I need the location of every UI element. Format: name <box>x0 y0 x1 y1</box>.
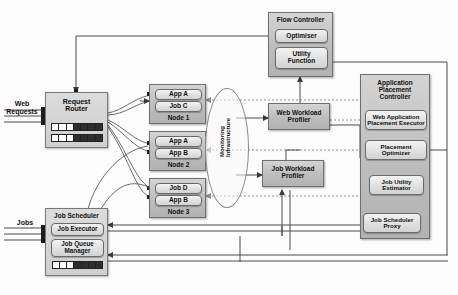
flow-controller-optimiser[interactable]: Optimiser <box>275 29 328 43</box>
request-router[interactable]: RequestRouter <box>45 92 108 148</box>
job-scheduler-title: Job Scheduler <box>46 213 107 220</box>
node-3[interactable]: Job D App B Node 3 <box>149 178 206 218</box>
node-1[interactable]: App A Job C Node 1 <box>149 84 206 124</box>
web-workload-profiler-title: Web WorkloadProfiler <box>269 110 329 124</box>
job-workload-profiler[interactable]: Job WorkloadProfiler <box>262 160 324 187</box>
node-2-slot-app-a[interactable]: App A <box>155 136 202 147</box>
flow-controller[interactable]: Flow Controller Optimiser UtilityFunctio… <box>268 12 333 77</box>
job-scheduler-proxy[interactable]: Job SchedulerProxy <box>363 213 421 233</box>
placement-optimizer[interactable]: PlacementOptimizer <box>365 140 427 160</box>
application-placement-controller[interactable]: ApplicationPlacementController Web Appli… <box>360 74 430 239</box>
job-workload-profiler-title: Job WorkloadProfiler <box>263 166 323 180</box>
node-3-label: Node 3 <box>150 208 207 215</box>
web-workload-profiler[interactable]: Web WorkloadProfiler <box>268 103 330 130</box>
job-queue-manager[interactable]: Job QueueManager <box>51 239 104 257</box>
job-scheduler[interactable]: Job Scheduler Job Executor Job QueueMana… <box>45 208 108 276</box>
request-router-title: RequestRouter <box>46 98 107 113</box>
flow-controller-utility-function[interactable]: UtilityFunction <box>275 47 328 69</box>
job-scheduler-queue-bar <box>52 261 103 269</box>
node-3-slot-app-b[interactable]: App B <box>155 195 202 206</box>
node-2-label: Node 2 <box>150 161 207 168</box>
jobs-label: Jobs <box>8 219 42 227</box>
web-requests-label: Web Requests <box>2 100 42 115</box>
node-1-slot-app-a[interactable]: App A <box>155 89 202 100</box>
application-placement-controller-title: ApplicationPlacementController <box>361 80 429 101</box>
node-3-slot-job-d[interactable]: Job D <box>155 183 202 194</box>
node-1-slot-job-c[interactable]: Job C <box>155 101 202 112</box>
monitoring-infrastructure-label: MonitoringInfrastructure <box>219 118 231 157</box>
request-router-queue-bar-2 <box>51 134 103 142</box>
request-router-queue-bar-1 <box>51 123 103 131</box>
node-2[interactable]: App A App B Node 2 <box>149 131 206 171</box>
job-utility-estimator[interactable]: Job UtilityEstimator <box>369 175 424 195</box>
node-1-label: Node 1 <box>150 114 207 121</box>
job-executor[interactable]: Job Executor <box>51 223 104 236</box>
web-application-placement-executor[interactable]: Web ApplicationPlacement Executor <box>365 110 427 130</box>
node-2-slot-app-b[interactable]: App B <box>155 148 202 159</box>
architecture-diagram: Web Requests Jobs RequestRouter App A Jo… <box>0 0 458 295</box>
flow-controller-title: Flow Controller <box>269 17 332 24</box>
